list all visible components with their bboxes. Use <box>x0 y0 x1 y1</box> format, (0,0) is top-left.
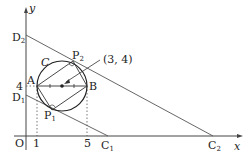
right-angle-p2-icon <box>69 64 75 66</box>
point-a-label: A <box>26 74 36 87</box>
chord-a-p1-b <box>37 86 87 110</box>
circle-label: C <box>41 56 50 69</box>
point-p1-label: P1 <box>44 109 56 123</box>
line-d1-c1 <box>26 95 108 136</box>
x-axis-arrow-icon <box>237 134 243 138</box>
pointer-arrow-icon <box>64 79 70 84</box>
diagram-canvas: y x O 1 5 4 C (3, 4) A B P2 P1 D2 D1 C1 … <box>0 0 247 158</box>
x-tick-1: 1 <box>33 137 40 150</box>
x-axis-label: x <box>234 140 241 153</box>
point-c2-label: C2 <box>208 139 221 153</box>
y-axis-label: y <box>28 2 36 15</box>
point-d2-label: D2 <box>12 31 25 45</box>
point-c1-label: C1 <box>101 139 114 153</box>
x-tick-5: 5 <box>84 137 91 150</box>
point-d1-label: D1 <box>12 91 25 105</box>
y-axis-arrow-icon <box>24 7 28 13</box>
origin-label: O <box>15 137 24 150</box>
center-point <box>60 84 64 88</box>
center-coordinate-label: (3, 4) <box>103 53 133 66</box>
point-b-label: B <box>89 80 97 93</box>
point-p2-label: P2 <box>72 49 84 63</box>
right-angle-p1-icon <box>50 105 55 107</box>
